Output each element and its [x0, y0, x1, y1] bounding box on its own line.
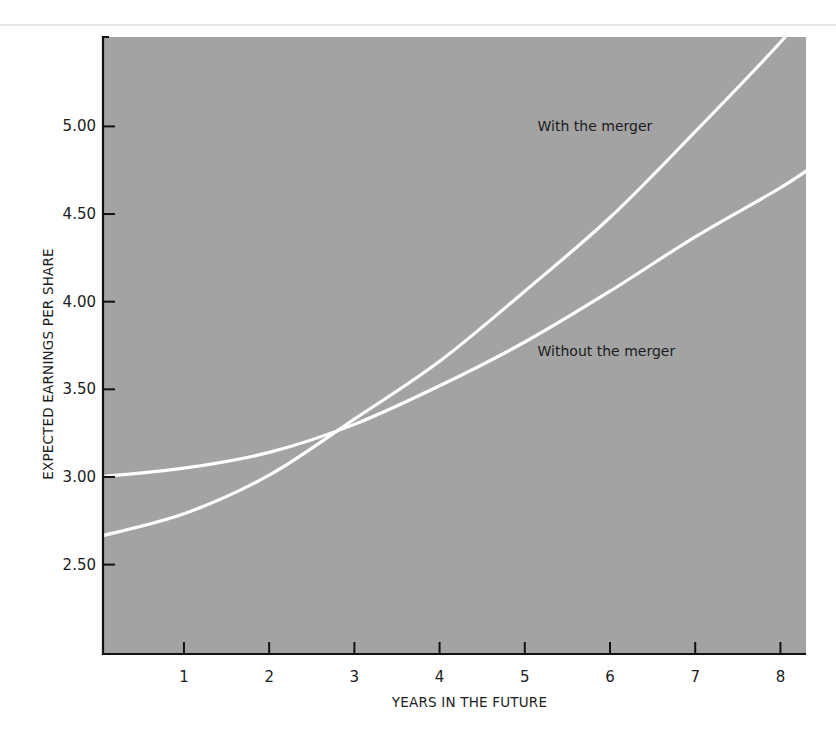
x-tick-label: 5 — [520, 668, 530, 686]
y-tick-label: 5.00 — [63, 117, 96, 135]
y-axis-title: EXPECTED EARNINGS PER SHARE — [40, 248, 56, 480]
y-tick-label: 3.50 — [63, 380, 96, 398]
y-tick-label: 2.50 — [63, 556, 96, 574]
y-tick-label: 4.00 — [63, 293, 96, 311]
x-tick-label: 4 — [435, 668, 445, 686]
x-tick-label: 8 — [776, 668, 786, 686]
x-tick-label: 3 — [350, 668, 360, 686]
x-tick-label: 1 — [179, 668, 189, 686]
earnings-per-share-chart: 12345678 2.503.003.504.004.505.00 YEARS … — [0, 0, 836, 733]
x-tick-label: 7 — [690, 668, 700, 686]
annotation-with-merger: With the merger — [538, 118, 653, 134]
x-tick-label: 2 — [264, 668, 274, 686]
x-tick-label: 6 — [605, 668, 615, 686]
y-tick-label: 3.00 — [63, 468, 96, 486]
plot-area — [103, 37, 806, 654]
annotation-without-merger: Without the merger — [538, 343, 676, 359]
y-tick-label: 4.50 — [63, 205, 96, 223]
x-axis-title: YEARS IN THE FUTURE — [391, 694, 547, 710]
